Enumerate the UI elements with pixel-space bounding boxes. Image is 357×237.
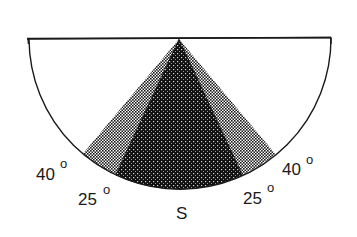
svg-text:o: o [306,152,313,167]
label-left-25: 25 o [78,182,110,209]
svg-text:o: o [60,156,67,171]
sun-angle-diagram: 40 o 25 o 40 o 25 o S [0,0,357,237]
svg-text:25: 25 [243,189,262,208]
label-right-40: 40 o [282,152,313,179]
svg-text:25: 25 [78,190,97,209]
label-right-25: 25 o [243,180,274,208]
label-left-40: 40 o [36,156,67,184]
svg-text:o: o [103,182,110,197]
svg-text:o: o [267,180,274,195]
left-edge [28,39,29,45]
label-south: S [176,204,187,223]
svg-text:40: 40 [36,165,55,184]
svg-text:40: 40 [282,160,301,179]
